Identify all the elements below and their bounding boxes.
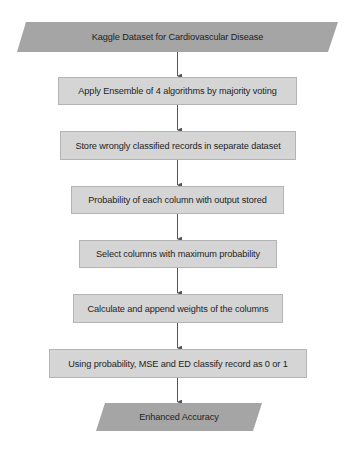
flowchart: Kaggle Dataset for Cardiovascular Diseas… — [0, 0, 349, 450]
start-node-dataset: Kaggle Dataset for Cardiovascular Diseas… — [17, 22, 338, 52]
connector-arrows — [0, 0, 349, 450]
process-step-6-label: Using probability, MSE and ED classify r… — [50, 350, 306, 377]
process-step-2: Store wrongly classified records in sepa… — [60, 131, 296, 160]
process-step-1: Apply Ensemble of 4 algorithms by majori… — [58, 77, 297, 105]
process-step-4: Select columns with maximum probability — [79, 240, 277, 268]
process-step-5: Calculate and append weights of the colu… — [73, 294, 283, 323]
process-step-3-label: Probability of each column with output s… — [72, 187, 283, 213]
process-step-6: Using probability, MSE and ED classify r… — [49, 349, 307, 378]
start-node-label: Kaggle Dataset for Cardiovascular Diseas… — [17, 22, 338, 52]
process-step-3: Probability of each column with output s… — [71, 186, 284, 214]
process-step-2-label: Store wrongly classified records in sepa… — [61, 132, 295, 159]
end-node-label: Enhanced Accuracy — [96, 403, 262, 431]
process-step-5-label: Calculate and append weights of the colu… — [74, 295, 282, 322]
end-node-result: Enhanced Accuracy — [96, 403, 262, 431]
process-step-4-label: Select columns with maximum probability — [80, 241, 276, 267]
process-step-1-label: Apply Ensemble of 4 algorithms by majori… — [59, 78, 296, 104]
